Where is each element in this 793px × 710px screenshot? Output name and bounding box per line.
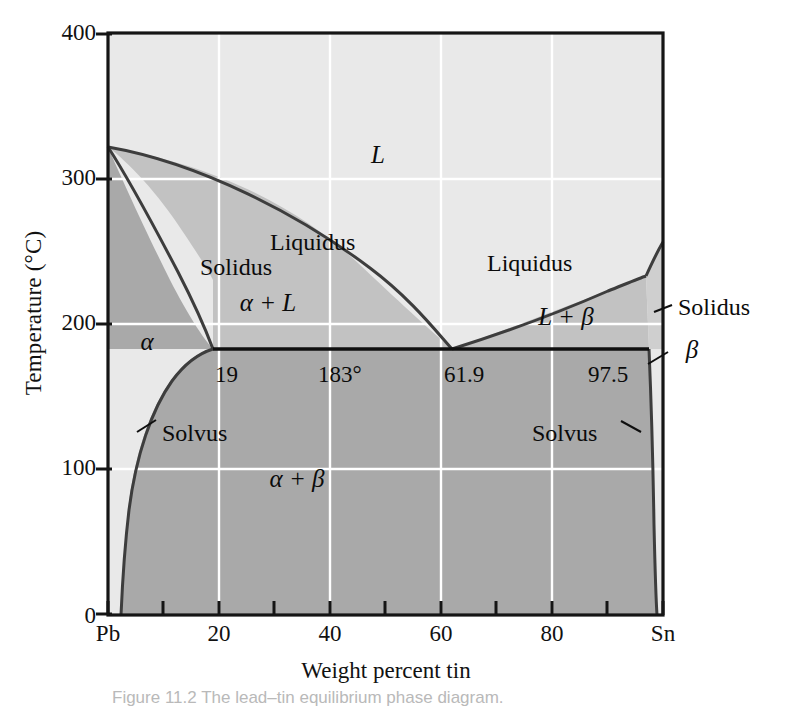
phase-diagram-figure: Temperature (°C) Weight percent tin 0 10…	[0, 0, 793, 710]
region-label-beta: β	[685, 336, 699, 363]
curve-label-solvus-right: Solvus	[532, 420, 597, 446]
curve-label-solvus-left: Solvus	[162, 420, 227, 446]
curve-label-solidus-right: Solidus	[678, 294, 750, 320]
region-label-liquid-plus-beta: L + β	[537, 303, 594, 330]
curve-label-solidus-left: Solidus	[200, 254, 272, 280]
alpha-plus-beta-region-fill	[121, 349, 657, 615]
point-label-alpha-max-solubility: 19	[215, 362, 238, 387]
region-label-alpha: α	[140, 328, 154, 355]
point-label-beta-max-solubility: 97.5	[588, 362, 628, 387]
point-label-eutectic-composition: 61.9	[444, 362, 484, 387]
phase-diagram-plot: L α + L α L + β β α + β Liquidus Solidus…	[0, 0, 793, 710]
curve-label-liquidus-left: Liquidus	[270, 229, 355, 255]
region-label-liquid: L	[370, 141, 385, 168]
region-label-alpha-plus-liquid: α + L	[240, 289, 296, 316]
curve-label-liquidus-right: Liquidus	[487, 250, 572, 276]
point-label-eutectic-temperature: 183°	[318, 362, 362, 387]
region-label-alpha-plus-beta: α + β	[270, 465, 325, 492]
